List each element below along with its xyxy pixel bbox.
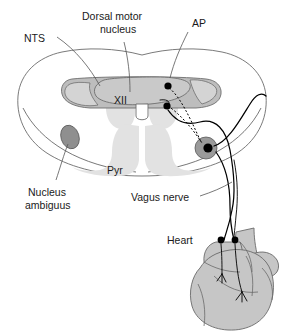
label-vagus-nerve: Vagus nerve [131,191,189,203]
label-dorsal-motor-nucleus-line2: nucleus [100,23,136,35]
label-hypoglossal: XII [114,94,127,106]
label-dorsal-motor-nucleus: Dorsal motor [82,10,143,22]
nodose-ganglion [195,137,217,159]
label-nts: NTS [24,32,45,44]
label-nucleus-ambiguus: Nucleus [28,186,66,198]
leader-vagus [200,182,232,196]
vagus-accessory-fiber [234,160,237,240]
vagus-afferent-trunk [216,152,234,240]
label-heart: Heart [167,234,193,246]
intracardiac-ganglion-right [232,237,239,244]
vagal-innervation-diagram: NTS Dorsal motor nucleus AP XII Pyr Nucl… [0,0,284,332]
label-pyramid: Pyr [107,164,123,176]
ventricles [190,250,273,331]
central-canal [136,104,148,120]
intracardiac-ganglion-left [218,237,225,244]
figure-canvas: NTS Dorsal motor nucleus AP XII Pyr Nucl… [0,0,284,332]
label-nucleus-ambiguus-line2: ambiguus [25,199,71,211]
preganglionic-soma-upper [164,82,171,89]
label-ap: AP [192,17,206,29]
